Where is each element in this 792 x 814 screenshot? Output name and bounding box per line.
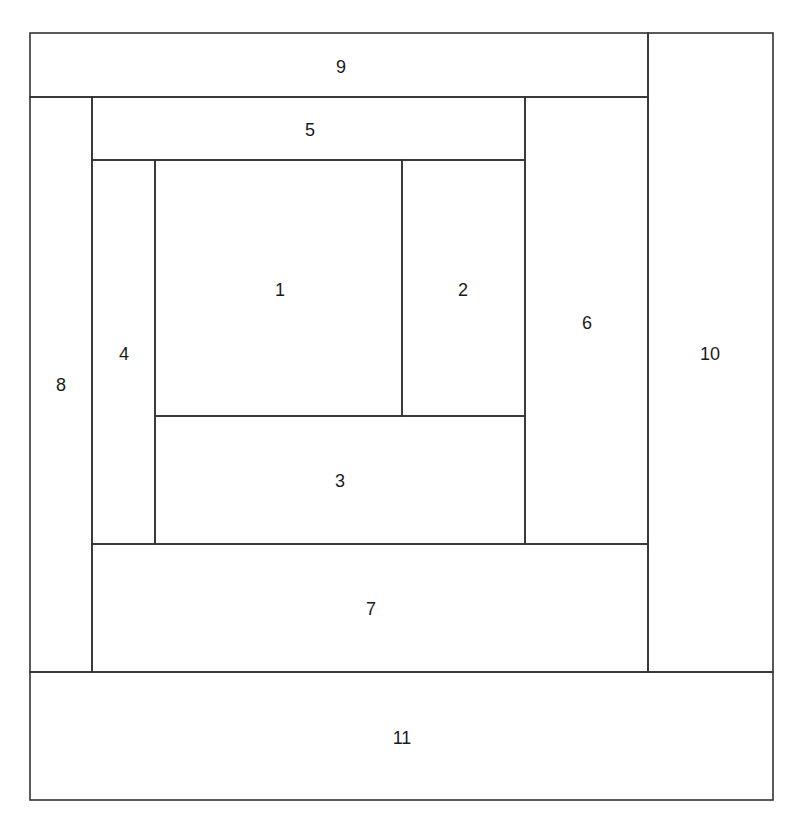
block-outlines — [0, 0, 792, 814]
block-label-9: 9 — [336, 57, 346, 78]
block-label-6: 6 — [582, 313, 592, 334]
block-label-5: 5 — [305, 120, 315, 141]
block-label-1: 1 — [275, 280, 285, 301]
block-label-2: 2 — [458, 280, 468, 301]
block-label-8: 8 — [56, 375, 66, 396]
block-label-11: 11 — [393, 728, 412, 749]
block-label-7: 7 — [366, 599, 376, 620]
log-cabin-diagram: 1234567891011 — [0, 0, 792, 814]
block-label-4: 4 — [119, 344, 129, 365]
block-label-10: 10 — [700, 344, 720, 365]
block-label-3: 3 — [335, 471, 345, 492]
